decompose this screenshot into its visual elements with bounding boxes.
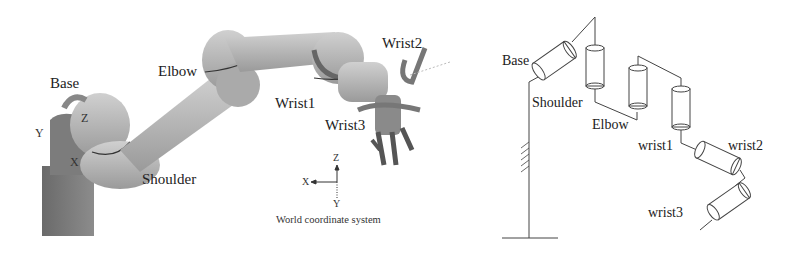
label-wrist3-3d: Wrist3	[325, 118, 365, 133]
label-wrist2-3d: Wrist2	[382, 36, 422, 51]
label-elbow-3d: Elbow	[158, 64, 197, 79]
label-base-schematic: Base	[502, 54, 529, 68]
label-wrist1-3d: Wrist1	[275, 96, 315, 111]
label-base-3d: Base	[50, 76, 79, 91]
world-z-label: Z	[333, 153, 339, 163]
label-axis-x-3d: X	[70, 156, 79, 168]
label-axis-y-3d: Y	[35, 127, 44, 139]
label-elbow-schematic: Elbow	[592, 118, 629, 132]
label-wrist1-schematic: wrist1	[638, 139, 673, 153]
label-wrist3-schematic: wrist3	[648, 206, 683, 220]
world-y-label: Y	[333, 199, 340, 209]
world-axes-icon	[311, 165, 339, 198]
label-axis-z-3d: Z	[81, 112, 88, 124]
world-frame-caption: World coordinate system	[276, 215, 381, 226]
label-shoulder-schematic: Shoulder	[532, 96, 583, 110]
label-wrist2-schematic: wrist2	[728, 139, 763, 153]
label-shoulder-3d: Shoulder	[142, 172, 196, 187]
world-x-label: X	[302, 177, 309, 187]
